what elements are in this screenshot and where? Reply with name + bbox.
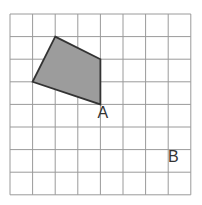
quadrilateral-shape [33,37,101,105]
grid-diagram: A B [0,0,202,205]
point-label-a: A [97,104,108,121]
point-label-b: B [168,148,179,165]
